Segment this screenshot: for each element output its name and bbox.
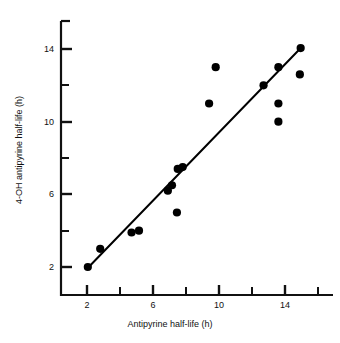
regression-line-segment xyxy=(87,47,302,269)
data-point xyxy=(127,228,135,236)
data-point xyxy=(135,227,143,235)
y-tick-label-14: 14 xyxy=(26,44,54,54)
y-axis-title: 4-OH antipyrine half-life (h) xyxy=(14,96,24,204)
y-tick-label-2: 2 xyxy=(26,262,54,272)
data-point xyxy=(259,81,267,89)
data-point xyxy=(173,208,181,216)
data-point xyxy=(179,163,187,171)
data-point xyxy=(274,118,282,126)
x-tick-label-2: 2 xyxy=(84,300,89,310)
data-point xyxy=(205,99,213,107)
data-point xyxy=(274,63,282,71)
x-tick-label-14: 14 xyxy=(280,300,290,310)
x-tick-label-6: 6 xyxy=(150,300,155,310)
data-point xyxy=(168,181,176,189)
data-point xyxy=(274,99,282,107)
data-point xyxy=(297,44,305,52)
data-point xyxy=(84,263,92,271)
x-axis-title: Antipyrine half-life (h) xyxy=(0,319,340,329)
data-point xyxy=(296,70,304,78)
data-point xyxy=(212,63,220,71)
y-axis-title-container: 4-OH antipyrine half-life (h) xyxy=(10,0,28,300)
y-tick-label-6: 6 xyxy=(26,189,54,199)
scatter-plot-figure: 14 10 6 2 2 6 10 14 Antipyrine half-life… xyxy=(0,0,340,343)
regression-line xyxy=(87,47,302,269)
data-point xyxy=(96,245,104,253)
y-tick-label-10: 10 xyxy=(26,117,54,127)
x-tick-label-10: 10 xyxy=(214,300,224,310)
